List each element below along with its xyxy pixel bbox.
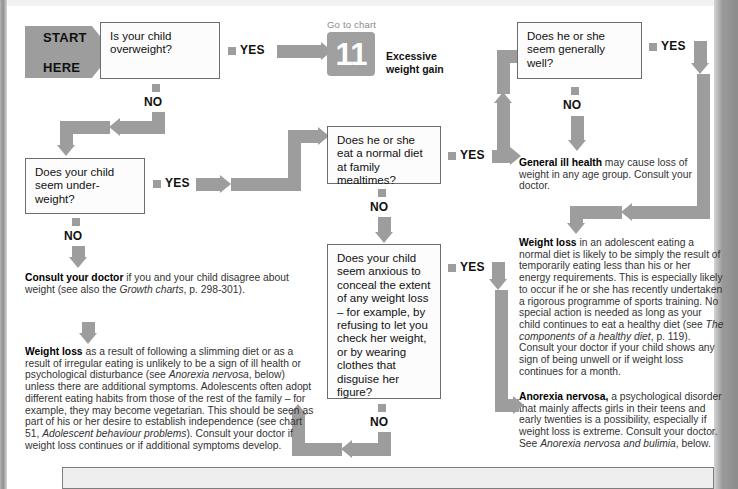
- connector-q1-no-arrowhead-left: [109, 118, 120, 136]
- connector-q5-no-arrowhead-left: [341, 440, 352, 458]
- connector-q3-no-vert: [378, 217, 391, 232]
- chart-number: 11: [336, 39, 367, 70]
- question-text: Does your child seem under-weight?: [35, 166, 114, 205]
- connector-q2-yes-horiz-top: [288, 130, 318, 143]
- question-box-underweight[interactable]: Does your child seem under-weight?: [25, 158, 145, 214]
- connector-q1-no-vert2: [60, 121, 73, 145]
- connector-q3-yes-vert-a: [497, 103, 510, 163]
- question-text: Is your child overweight?: [110, 30, 172, 55]
- go-to-chart-label: Go to chart: [327, 19, 376, 30]
- no-label-overweight: NO: [144, 95, 162, 109]
- connector-q2-yes-arrowhead-mid: [220, 175, 231, 193]
- connector-q4-no-arrowhead: [568, 140, 586, 151]
- no-marker-square: [378, 189, 386, 197]
- yes-label-underweight: YES: [165, 176, 190, 190]
- advice-i1: Anorexia nervosa and bulimia: [540, 438, 676, 449]
- question-box-conceal-weight-loss[interactable]: Does your child seem anxious to conceal …: [327, 244, 441, 399]
- connector-q5-yes-arrowhead-into-anorexia: [513, 396, 524, 414]
- advice-p2: , below.: [676, 438, 711, 449]
- yes-label-conceal: YES: [460, 260, 485, 274]
- connector-q5-yes-vert-a: [492, 262, 505, 279]
- advice-i2: Adolescent behaviour problems: [42, 428, 186, 439]
- yes-marker-square: [448, 152, 456, 160]
- page-left-gutter: [0, 0, 7, 489]
- question-text: Does he or she seem generally well?: [527, 30, 605, 69]
- question-text: Does your child seem anxious to conceal …: [337, 252, 430, 398]
- chart-reference-caption: Excessive weight gain: [386, 50, 466, 75]
- question-box-generally-well[interactable]: Does he or she seem generally well?: [517, 22, 642, 79]
- yes-label-generally-well: YES: [661, 39, 686, 53]
- connector-q3-no-arrowhead: [375, 232, 393, 243]
- chart-caption-line1: Excessive: [386, 50, 437, 62]
- yes-marker-square: [153, 180, 161, 188]
- chart-caption-line2: weight gain: [386, 63, 444, 75]
- flowchart-page: START HERE Is your child overweight? YES…: [0, 0, 738, 489]
- connector-q4-no-vert: [571, 116, 584, 140]
- connector-q5-yes-arrowhead-down: [489, 279, 507, 290]
- no-label-generally-well: NO: [563, 98, 581, 112]
- question-box-normal-diet[interactable]: Does he or she eat a normal diet at fami…: [327, 126, 441, 184]
- start-label-line2: HERE: [34, 60, 87, 75]
- connector-q4-yes-arrowhead-down: [691, 63, 709, 74]
- no-marker-square: [378, 404, 386, 412]
- advice-consult-your-doctor: Consult your doctor if you and your chil…: [25, 272, 307, 295]
- yes-label-overweight: YES: [240, 43, 265, 57]
- page-top-band: [7, 0, 714, 6]
- connector-q4-yes-horiz: [632, 206, 710, 219]
- advice-lead: Consult your doctor: [25, 272, 123, 283]
- question-box-overweight[interactable]: Is your child overweight?: [100, 22, 220, 79]
- yes-marker-square: [228, 47, 236, 55]
- no-label-normal-diet: NO: [370, 200, 388, 214]
- advice-italic: Growth charts: [119, 284, 183, 295]
- connector-q1-yes-shaft: [277, 45, 321, 58]
- no-marker-square: [72, 218, 80, 226]
- connector-q2-no-vert: [72, 246, 85, 257]
- connector-into-weight-loss-left-shaft: [82, 322, 95, 333]
- connector-q1-no-arrowhead-down: [57, 145, 75, 156]
- advice-i1: Anorexia nervosa: [169, 369, 249, 380]
- advice-weight-loss-slimming: Weight loss as a result of following a s…: [25, 346, 317, 451]
- advice-weight-loss-adolescent: Weight loss in an adolescent eating a no…: [519, 237, 724, 377]
- advice-tail: , p. 298-301).: [184, 284, 245, 295]
- advice-lead: Anorexia nervosa,: [519, 391, 608, 402]
- connector-q1-no-horiz: [120, 121, 165, 134]
- connector-q2-no-arrowhead: [69, 257, 87, 268]
- connector-q4-yes-vert-c: [570, 206, 583, 223]
- no-marker-square: [571, 87, 579, 95]
- advice-lead: Weight loss: [25, 346, 83, 357]
- bottom-info-panel: [62, 467, 714, 489]
- connector-q5-no-horiz: [352, 443, 391, 456]
- advice-p1: in an adolescent eating a normal diet is…: [519, 237, 723, 330]
- start-label-line1: START: [34, 30, 87, 45]
- no-label-conceal: NO: [370, 415, 388, 429]
- connector-q4-yes-arrowhead-left: [621, 203, 632, 221]
- chart-reference-tile-11[interactable]: 11: [327, 32, 375, 76]
- connector-into-weight-loss-left-arrowhead: [79, 333, 97, 344]
- no-marker-square: [152, 84, 160, 92]
- advice-anorexia-nervosa: Anorexia nervosa, a psychological disord…: [519, 391, 724, 450]
- yes-marker-square: [649, 43, 657, 51]
- question-text: Does he or she eat a normal diet at fami…: [337, 134, 423, 186]
- yes-marker-square: [448, 264, 456, 272]
- connector-q4-yes-arrowhead-into-text: [567, 223, 585, 234]
- yes-label-normal-diet: YES: [460, 148, 485, 162]
- no-label-underweight: NO: [64, 229, 82, 243]
- connector-q5-yes-vert-b: [495, 290, 508, 412]
- advice-lead: General ill health: [519, 157, 602, 168]
- advice-general-ill-health: General ill health may cause loss of wei…: [519, 157, 719, 192]
- advice-lead: Weight loss: [519, 237, 577, 248]
- connector-q2-yes-shaft-a: [196, 178, 220, 191]
- connector-q4-yes-vert-b: [697, 74, 710, 219]
- connector-q4-yes-vert-a: [694, 41, 707, 63]
